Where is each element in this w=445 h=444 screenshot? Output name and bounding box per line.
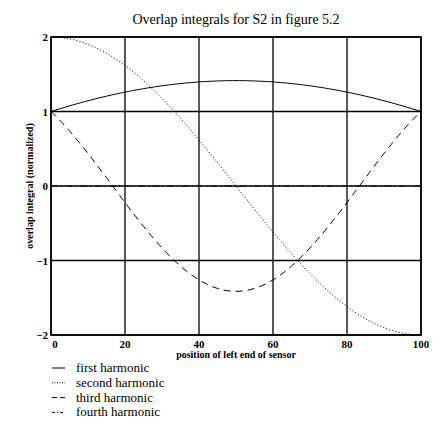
legend-item: third harmonic (52, 390, 153, 405)
x-axis-label: position of left end of sensor (176, 349, 296, 360)
y-tick-label: 0 (43, 180, 49, 192)
x-tick-label: 20 (120, 338, 132, 350)
legend-label: fourth harmonic (76, 404, 160, 419)
legend-item: fourth harmonic (52, 404, 160, 419)
series-first-harmonic (51, 81, 421, 112)
series-third-harmonic (51, 112, 421, 292)
chart-title: Overlap integrals for S2 in figure 5.2 (132, 12, 339, 27)
legend-label: first harmonic (76, 360, 150, 375)
y-tick-label: 2 (43, 31, 49, 43)
x-tick-label: 80 (342, 338, 354, 350)
legend-label: third harmonic (76, 390, 153, 405)
x-tick-label: 100 (413, 338, 430, 350)
legend: first harmonicsecond harmonicthird harmo… (52, 360, 165, 419)
chart: Overlap integrals for S2 in figure 5.2 0… (0, 0, 445, 444)
legend-item: first harmonic (52, 360, 150, 375)
x-tick-label: 0 (52, 338, 58, 350)
y-axis-label: overlap integral (normalized) (24, 123, 36, 249)
y-tick-label: −1 (36, 255, 48, 267)
y-tick-labels: 210−1−2 (36, 31, 48, 341)
legend-label: second harmonic (76, 375, 165, 390)
legend-item: second harmonic (52, 375, 165, 390)
y-tick-label: −2 (36, 329, 48, 341)
y-tick-label: 1 (43, 106, 49, 118)
